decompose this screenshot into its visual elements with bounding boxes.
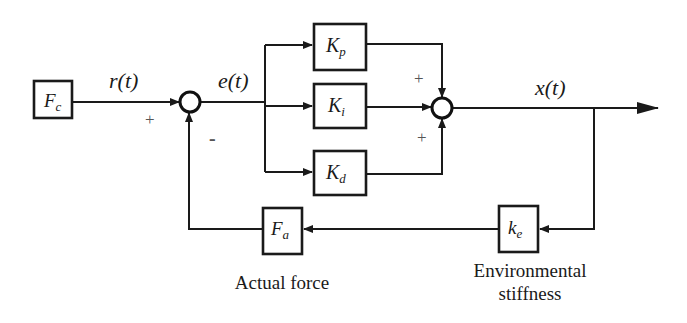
block-ke-sub: e bbox=[516, 226, 522, 241]
caption-actual-force: Actual force bbox=[235, 272, 329, 293]
block-kd-sub: d bbox=[339, 171, 346, 186]
signal-wires bbox=[72, 44, 658, 229]
block-fc: Fc bbox=[34, 81, 72, 118]
block-fa: Fa bbox=[263, 208, 302, 254]
sign-sum1-plus: + bbox=[145, 110, 155, 129]
wire-kd-out bbox=[366, 119, 442, 174]
signal-label-reference: r(t) bbox=[109, 68, 138, 93]
wire-output-feedback bbox=[540, 108, 594, 229]
pid-force-control-diagram: Fc Kp Ki Kd Fa ke r(t) e(t) x(t) + - + +… bbox=[0, 0, 687, 323]
block-fc-sub: c bbox=[56, 99, 62, 114]
block-kp-sub: p bbox=[338, 44, 346, 59]
block-kd: Kd bbox=[314, 151, 366, 195]
block-ki: Ki bbox=[314, 84, 366, 128]
summing-junction-pid bbox=[432, 98, 452, 118]
block-ki-sub: i bbox=[341, 104, 345, 119]
signal-label-error: e(t) bbox=[218, 68, 249, 93]
sign-sum1-minus: - bbox=[209, 127, 216, 149]
block-fa-main: F bbox=[270, 218, 283, 239]
caption-environmental: Environmental bbox=[474, 260, 587, 281]
summing-junction-error bbox=[180, 92, 200, 112]
wire-feedback bbox=[189, 113, 262, 229]
sign-sum2-bottom-plus: + bbox=[417, 128, 427, 147]
caption-stiffness: stiffness bbox=[499, 283, 562, 304]
signal-label-output: x(t) bbox=[534, 75, 566, 100]
wire-kp-out bbox=[366, 44, 442, 97]
block-fc-main: F bbox=[43, 90, 56, 111]
block-fa-sub: a bbox=[283, 227, 290, 242]
sign-sum2-top-plus: + bbox=[414, 69, 424, 88]
block-kp: Kp bbox=[314, 24, 366, 70]
block-ke: ke bbox=[499, 206, 538, 252]
